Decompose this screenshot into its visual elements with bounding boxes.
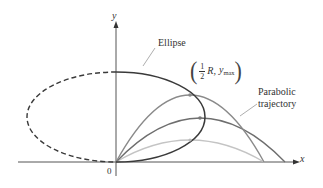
apex-point-low	[188, 138, 191, 141]
fraction-numerator: 1	[199, 62, 205, 72]
parabolic-label-line2: trajectory	[258, 98, 296, 110]
fraction-denominator: 2	[200, 72, 204, 81]
x-axis-arrow-icon	[293, 160, 300, 165]
x-axis-label: x	[300, 154, 304, 164]
ellipse-label: Ellipse	[158, 38, 186, 48]
y-axis	[114, 21, 119, 176]
y-axis-label: y	[112, 11, 116, 21]
fraction-one-half: 1 2	[199, 62, 205, 81]
origin-label: 0	[107, 167, 112, 176]
right-paren: )	[235, 59, 242, 83]
range-symbol: R,	[207, 66, 216, 76]
apex-point-high	[188, 93, 192, 97]
left-paren: (	[190, 59, 197, 83]
parabolic-leader-line	[240, 104, 257, 116]
projectile-ellipse-diagram: y x 0 Ellipse ( 1 2 R, ymax ) Parabolic …	[0, 0, 323, 188]
ellipse-leader-line	[143, 48, 155, 66]
y-subscript: max	[223, 69, 234, 76]
y-max-symbol: ymax	[219, 65, 235, 77]
max-point-label: ( 1 2 R, ymax )	[190, 60, 242, 82]
ellipse-dashed-left-half	[27, 72, 116, 162]
parabolic-label-line1: Parabolic	[258, 86, 296, 98]
y-axis-arrow-icon	[114, 21, 119, 28]
apex-point-mid	[198, 116, 202, 120]
parabolic-trajectory-label: Parabolic trajectory	[258, 86, 296, 110]
parabola-low	[116, 140, 264, 162]
parabola-high	[116, 95, 264, 162]
x-axis	[18, 160, 300, 165]
